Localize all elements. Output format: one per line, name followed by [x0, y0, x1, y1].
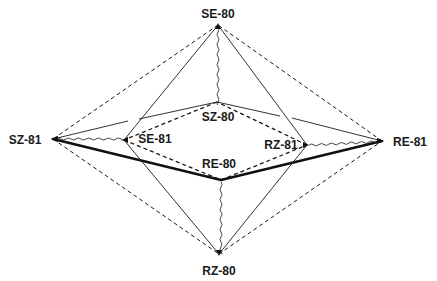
wavy-edges — [56, 27, 382, 254]
label-re-80: RE-80 — [202, 157, 236, 171]
wavy-re80-rz80 — [220, 182, 222, 254]
label-rz-81: RZ-81 — [264, 138, 298, 152]
label-se-80: SE-80 — [201, 7, 235, 21]
diagram-canvas: SE-80 SZ-81 RE-81 RZ-80 SZ-80 SE-81 RZ-8… — [0, 0, 437, 281]
arrow-se81-icon — [122, 137, 128, 143]
label-rz-80: RZ-80 — [202, 264, 236, 278]
arrow-sz81-icon — [51, 136, 58, 142]
arrow-re81-icon — [377, 138, 384, 144]
wavy-sz81-se81 — [56, 138, 124, 140]
label-sz-81: SZ-81 — [9, 133, 42, 147]
label-sz-80: SZ-80 — [202, 110, 235, 124]
wavy-se80-sz80 — [217, 27, 219, 105]
label-se-81: SE-81 — [138, 132, 172, 146]
label-re-81: RE-81 — [393, 135, 427, 149]
